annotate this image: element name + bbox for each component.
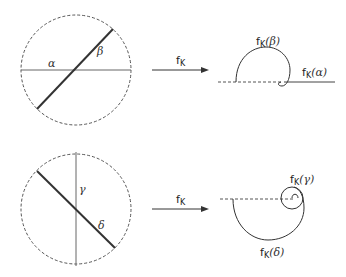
f-gamma-inner-curl (292, 194, 298, 198)
gamma-label: γ (79, 183, 86, 196)
bottom-arrowhead-icon (201, 206, 209, 212)
bottom-arrow-label: fK (176, 193, 186, 207)
bottom-panel: γ δ fK fK(γ) fK(δ) (21, 152, 314, 266)
diagram-canvas: α β fK fK(β) fK(α) γ δ fK fK(γ) fK(δ) (0, 0, 346, 277)
f-gamma-label: fK(γ) (290, 173, 314, 187)
alpha-label: α (48, 57, 56, 70)
f-beta-label: fK(β) (256, 35, 280, 49)
top-arrow-label: fK (176, 54, 186, 68)
delta-label: δ (98, 219, 105, 232)
top-arrowhead-icon (201, 67, 209, 73)
f-alpha-label: fK(α) (302, 66, 327, 80)
beta-label: β (96, 45, 103, 58)
top-panel: α β fK fK(β) fK(α) (21, 15, 335, 125)
f-delta-label: fK(δ) (260, 246, 284, 260)
f-beta-curve (236, 47, 290, 86)
